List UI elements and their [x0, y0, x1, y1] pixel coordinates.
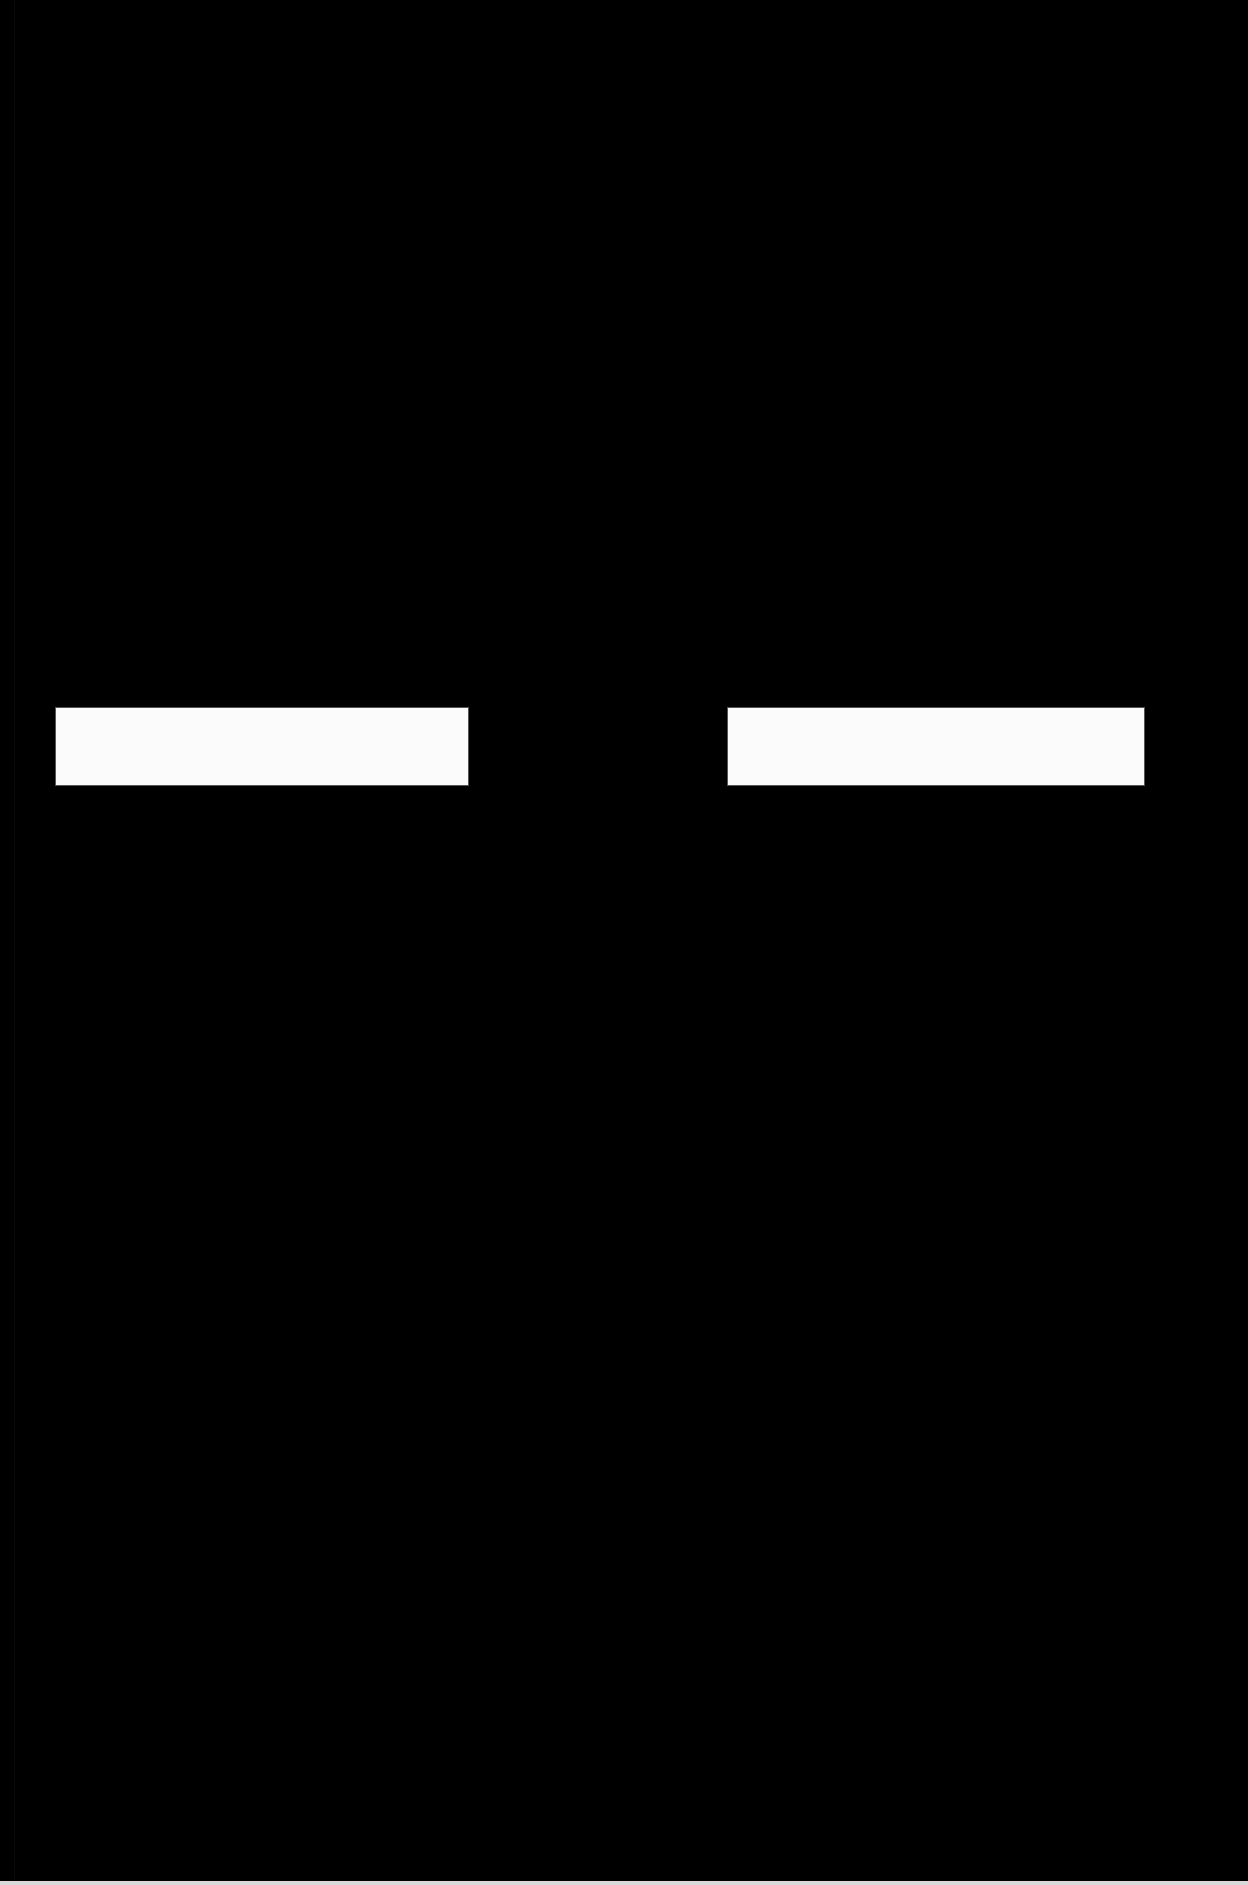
left-input-box[interactable]	[55, 707, 469, 786]
left-border	[14, 0, 15, 1880]
right-input-box[interactable]	[727, 707, 1145, 786]
bottom-strip	[0, 1881, 1248, 1885]
top-nav-bar	[0, 0, 1248, 8]
